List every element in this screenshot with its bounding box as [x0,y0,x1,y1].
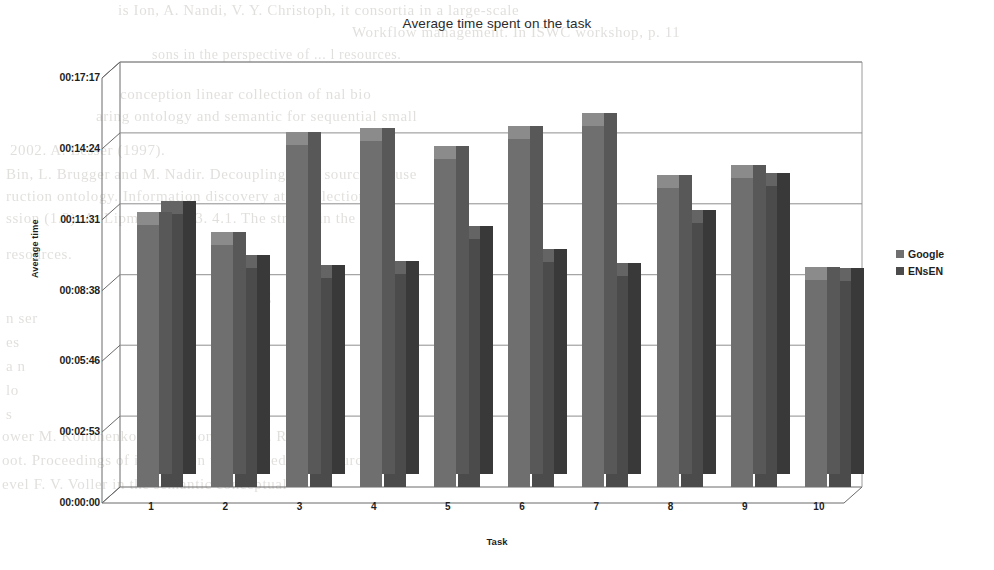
bar-side-face [257,255,270,474]
bar-side-face [851,268,864,474]
bar-side-face [308,132,321,474]
bar-front-face [731,178,753,487]
x-axis-tick-label: 2 [210,501,240,512]
bar-top-face [360,128,382,141]
bar-top-face [137,212,159,225]
bar-side-face [183,201,196,474]
bar-side-face [827,267,840,474]
bar-top-face [582,113,604,126]
legend-swatch-icon [896,267,904,275]
bar-side-face [382,128,395,474]
bar-front-face [137,225,159,487]
x-axis-tick-label: 7 [581,501,611,512]
bar-google-task-7 [582,126,604,487]
bar-google-task-8 [657,188,679,487]
bar-google-task-2 [211,245,233,487]
bar-google-task-9 [731,178,753,487]
x-axis-tick-label: 6 [507,501,537,512]
bar-side-face [159,212,172,474]
chart-legend: GoogleENsEN [896,248,944,282]
x-axis-tick-label: 10 [804,501,834,512]
bar-front-face [805,280,827,487]
x-axis-tick-label: 9 [730,501,760,512]
bar-front-face [434,159,456,487]
bar-front-face [211,245,233,487]
bar-front-face [582,126,604,487]
legend-item-google[interactable]: Google [896,248,944,260]
bar-top-face [657,175,679,188]
x-axis-tick-label: 8 [656,501,686,512]
bar-front-face [657,188,679,487]
bar-top-face [211,232,233,245]
bar-google-task-3 [286,145,308,487]
bar-side-face [604,113,617,474]
bar-side-face [530,126,543,474]
legend-item-ensen[interactable]: ENsEN [896,265,944,277]
bar-side-face [628,263,641,474]
bar-top-face [286,132,308,145]
bar-front-face [508,139,530,487]
bar-side-face [406,261,419,474]
bar-top-face [434,146,456,159]
bar-side-face [480,226,493,474]
bar-front-face [286,145,308,487]
bar-google-task-1 [137,225,159,487]
bar-side-face [233,232,246,474]
bar-google-task-4 [360,141,382,487]
bar-side-face [456,146,469,474]
x-axis-tick-label: 3 [285,501,315,512]
x-axis-tick-label: 4 [359,501,389,512]
legend-swatch-icon [896,250,904,258]
bar-side-face [753,165,766,474]
bar-front-face [360,141,382,487]
bar-google-task-6 [508,139,530,487]
bar-side-face [554,249,567,474]
bar-google-task-5 [434,159,456,487]
x-axis-tick-label: 1 [136,501,166,512]
bar-google-task-10 [805,280,827,487]
bar-top-face [805,267,827,280]
x-axis-tick-label: 5 [433,501,463,512]
bar-side-face [777,173,790,474]
bar-side-face [679,175,692,474]
bar-top-face [508,126,530,139]
legend-label: Google [908,248,944,260]
bar-side-face [332,265,345,474]
x-axis-title: Task [0,536,994,547]
bar-side-face [703,210,716,474]
chart-container: Average time spent on the task 00:00:000… [0,0,994,570]
legend-label: ENsEN [908,265,943,277]
bar-top-face [731,165,753,178]
